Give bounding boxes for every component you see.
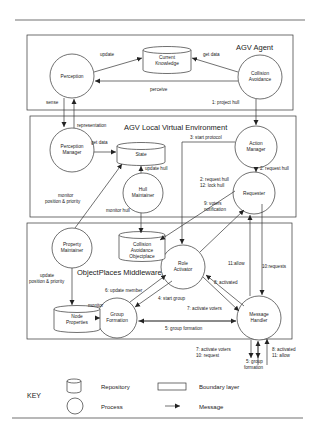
propm-label-1: Property [63, 242, 82, 247]
msg-update: update [100, 52, 114, 57]
msg-update-pp-1: update [40, 273, 54, 278]
hm-label-1: Hull [139, 187, 147, 192]
lve-title: AGV Local Virtual Environment [124, 123, 228, 132]
msg-get-data-2: get data [91, 140, 108, 145]
msg-update-pp-2: position & priority [29, 279, 65, 284]
msg-ext-allow: 11: allow [272, 353, 290, 358]
perception-label: Perception [61, 74, 84, 79]
architecture-diagram: AGV Agent AGV Local Virtual Environment … [0, 0, 315, 440]
msg-update-member: 6: update member [105, 288, 143, 293]
key-repository-icon [67, 379, 81, 393]
msg-monitor-hull: monitor hull [106, 208, 130, 213]
msg-representation: representation [77, 123, 107, 128]
cao-label-2: Avoidance [131, 248, 154, 253]
ck-label-1: Current [159, 55, 176, 60]
pm-label-1: Perception [61, 144, 84, 149]
msg-update-hull: update hull [145, 166, 167, 171]
key-boundary-label: Boundary layer [199, 384, 239, 390]
requester-label: Requester [243, 191, 266, 196]
ra-label-1: Role [178, 261, 188, 266]
np-label-2: Properties [66, 320, 88, 325]
key-message-label: Message [199, 404, 224, 410]
cao-label-3: Objectplace [129, 254, 155, 259]
gf-label-1: Group [110, 312, 124, 317]
key-repository-label: Repository [101, 384, 130, 390]
msg-ext-request: 10: request [196, 353, 220, 358]
mh-label-1: Message [249, 312, 269, 317]
key-boundary-icon [158, 383, 186, 390]
msg-voters: 9: voters [204, 201, 222, 206]
msg-notification: notification [204, 207, 226, 212]
msg-ext-formation: formation [244, 365, 264, 370]
msg-request-hull-2: 2: request hull [200, 177, 229, 182]
msg-perceive: perceive [150, 87, 168, 92]
msg-sense: sense [46, 100, 59, 105]
msg-request-hull: 2: request hull [260, 166, 289, 171]
msg-get-data-1: get data [203, 52, 220, 57]
ck-label-2: Knowledge [155, 61, 179, 66]
msg-position-priority: position & priority [45, 199, 81, 204]
pm-label-2: Manager [63, 150, 82, 155]
msg-start-protocol: 3: start protocol [190, 135, 222, 140]
hm-label-2: Maintainer [132, 193, 155, 198]
middleware-title: ObjectPlaces Middleware [77, 268, 162, 277]
key-title: KEY [27, 392, 41, 399]
msg-start-group: 4: start group [158, 296, 186, 301]
am-label-2: Manager [247, 147, 266, 152]
msg-lock-hull: 12: lock hull [200, 183, 224, 188]
ca-label-1: Collision [251, 71, 269, 76]
msg-project-hull: 1: project hull [212, 100, 239, 105]
msg-activated: 8: activated [214, 280, 238, 285]
am-label-1: Action [249, 141, 263, 146]
msg-ext-activated: 8: activated [272, 347, 296, 352]
current-knowledge-repository [143, 47, 191, 74]
agv-agent-title: AGV Agent [236, 43, 274, 52]
state-label: State [135, 152, 147, 157]
msg-group-formation: 5: group formation [165, 326, 203, 331]
ra-label-2: Activator [174, 267, 193, 272]
msg-monitor: monitor [58, 193, 74, 198]
ca-label-2: Avoidance [249, 77, 272, 82]
msg-allow: 11:allow [228, 261, 245, 266]
gf-label-2: Formation [106, 318, 128, 323]
msg-requests: 10:requests [262, 264, 287, 269]
msg-ext-group: 5: group [246, 359, 263, 364]
msg-ext-activate-voters: 7: activate voters [196, 347, 231, 352]
msg-monitor-2: monitor [88, 303, 104, 308]
mh-label-2: Handler [251, 318, 268, 323]
key-process-label: Process [101, 404, 123, 410]
cao-label-1: Collision [133, 242, 151, 247]
np-label-1: Node [71, 314, 83, 319]
propm-label-2: Maintainer [61, 248, 84, 253]
key-process-icon [67, 398, 83, 414]
msg-activate-voters: 7: activate voters [187, 306, 222, 311]
